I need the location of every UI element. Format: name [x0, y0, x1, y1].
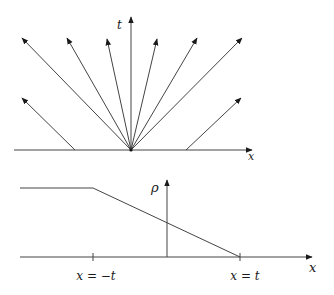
characteristics-panel	[14, 17, 252, 152]
fan-arrow-4	[131, 39, 157, 150]
density-panel	[20, 180, 312, 261]
fan-arrow-6	[131, 38, 242, 150]
rho-axis-label: ρ	[150, 180, 159, 195]
x-axis-label-bottom: x	[309, 260, 317, 275]
density-profile	[20, 188, 240, 257]
diagram-canvas: t x ρ x x = −t x = t	[0, 0, 334, 295]
x-axis-label-top: x	[248, 150, 255, 163]
right-characteristic-arrow	[186, 98, 241, 150]
tick-label-minus-t: x = −t	[76, 269, 116, 283]
left-characteristic-arrow	[22, 98, 75, 150]
origin-point	[129, 148, 132, 151]
fan-arrow-3	[107, 39, 131, 150]
t-axis-label: t	[117, 18, 122, 32]
tick-label-plus-t: x = t	[230, 269, 259, 283]
